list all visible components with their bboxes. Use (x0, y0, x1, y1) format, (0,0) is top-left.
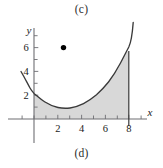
x-axis-label: x (147, 106, 153, 118)
figure-label-d: (d) (0, 147, 163, 159)
shaded-region (34, 51, 129, 119)
x-tick-label-group: 2 4 6 8 (55, 123, 131, 134)
x-tick-label: 4 (79, 123, 85, 134)
y-axis-label: y (26, 24, 32, 36)
plot-svg: x y 2 4 6 8 2 4 6 (0, 14, 163, 144)
y-tick-label-group: 2 4 6 (23, 42, 29, 101)
y-tick-label: 6 (23, 42, 28, 53)
x-tick-label: 6 (103, 123, 108, 134)
x-tick-label: 8 (126, 123, 131, 134)
y-tick-label: 4 (23, 66, 29, 77)
data-point-marker (61, 45, 66, 50)
y-tick-label: 2 (23, 90, 28, 101)
x-tick-label: 2 (55, 123, 60, 134)
figure-container: (c) (0, 0, 163, 168)
plot-area: x y 2 4 6 8 2 4 6 (0, 14, 163, 144)
